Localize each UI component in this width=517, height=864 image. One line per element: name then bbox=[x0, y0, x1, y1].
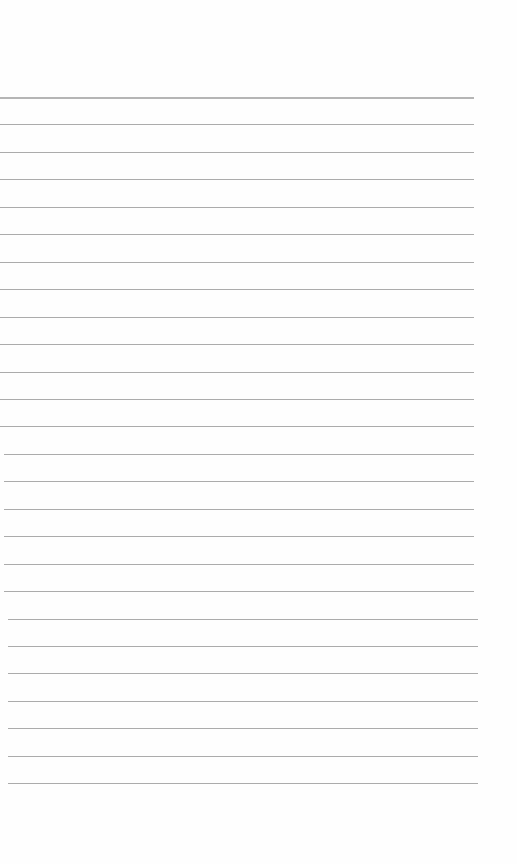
ruled-line bbox=[0, 399, 474, 400]
ruled-line bbox=[0, 124, 474, 125]
ruled-line bbox=[0, 152, 474, 153]
ruled-line bbox=[0, 207, 474, 208]
ruled-line bbox=[4, 509, 474, 510]
ruled-line bbox=[0, 426, 474, 427]
ruled-line bbox=[0, 372, 474, 373]
ruled-line bbox=[4, 536, 474, 537]
ruled-line bbox=[0, 289, 474, 290]
ruled-paper-page bbox=[0, 0, 517, 864]
ruled-line bbox=[0, 317, 474, 318]
ruled-line bbox=[0, 344, 474, 345]
ruled-line bbox=[8, 701, 478, 702]
ruled-line bbox=[8, 673, 478, 674]
ruled-line bbox=[4, 481, 474, 482]
ruled-line bbox=[8, 619, 478, 620]
ruled-line bbox=[8, 646, 478, 647]
ruled-line bbox=[0, 262, 474, 263]
ruled-line bbox=[4, 564, 474, 565]
ruled-line bbox=[8, 728, 478, 729]
ruled-line bbox=[0, 179, 474, 180]
ruled-line bbox=[4, 454, 474, 455]
ruled-line bbox=[0, 97, 474, 99]
ruled-line bbox=[8, 756, 478, 757]
ruled-line bbox=[0, 234, 474, 235]
ruled-line bbox=[4, 591, 474, 592]
ruled-line bbox=[8, 783, 478, 784]
